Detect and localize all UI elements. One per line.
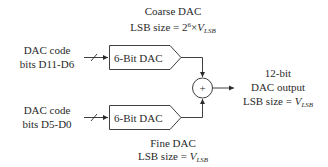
fine-dac-output-wire xyxy=(181,99,203,118)
plus-icon: + xyxy=(199,82,205,94)
fine-dac-lsb-size: LSB size = VLSB xyxy=(118,150,228,166)
top-input-label: DAC code bits D11-D6 xyxy=(12,43,82,71)
bottom-input-line1: DAC code xyxy=(12,103,82,117)
coarse-dac-block: 6-Bit DAC xyxy=(110,46,182,70)
output-lsb-size: LSB size = VLSB xyxy=(236,94,320,112)
fine-dac-title: Fine DAC xyxy=(128,137,218,149)
coarse-lsb-v: V xyxy=(197,21,204,33)
output-line1: 12-bit xyxy=(236,66,320,80)
bottom-input-line2: bits D5-D0 xyxy=(12,117,82,131)
coarse-dac-output-wire xyxy=(181,58,203,78)
output-line2: DAC output xyxy=(236,80,320,94)
coarse-lsb-prefix: LSB size = 2 xyxy=(130,21,187,33)
coarse-dac-block-label: 6-Bit DAC xyxy=(114,52,163,64)
summing-junction: + xyxy=(193,78,213,98)
output-lsb-sub: LSB xyxy=(301,101,313,109)
top-input-line2: bits D11-D6 xyxy=(12,57,82,71)
coarse-dac-title: Coarse DAC xyxy=(128,5,218,17)
coarse-dac-lsb-size: LSB size = 26×VLSB xyxy=(112,19,234,37)
fine-dac-block-label: 6-Bit DAC xyxy=(114,112,163,124)
bottom-input-label: DAC code bits D5-D0 xyxy=(12,103,82,131)
fine-lsb-prefix: LSB size = xyxy=(138,150,190,162)
coarse-lsb-sub: LSB xyxy=(204,27,216,35)
output-label: 12-bit DAC output LSB size = VLSB xyxy=(236,66,320,112)
top-input-line1: DAC code xyxy=(12,43,82,57)
bottom-input-bus xyxy=(84,114,108,121)
output-lsb-prefix: LSB size = xyxy=(243,95,295,107)
top-input-bus xyxy=(84,54,108,61)
fine-lsb-sub: LSB xyxy=(196,156,208,164)
fine-dac-block: 6-Bit DAC xyxy=(110,106,182,130)
